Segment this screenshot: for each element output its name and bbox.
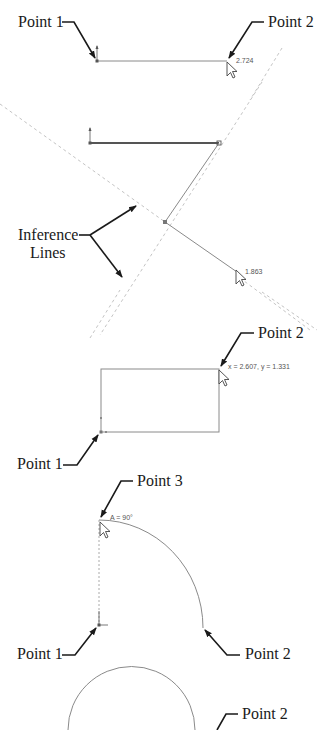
point2-callout-arrow bbox=[229, 22, 264, 58]
inference-line-extension bbox=[240, 278, 310, 330]
origin-icon bbox=[98, 611, 109, 627]
midpoint-marker-icon bbox=[100, 417, 102, 419]
point2-label: Point 2 bbox=[245, 645, 291, 662]
midpoint-marker-icon bbox=[105, 431, 107, 433]
inference-callout-arrow-lower bbox=[90, 235, 122, 277]
arc-angle: A = 90° bbox=[110, 514, 133, 521]
inference-line bbox=[250, 48, 282, 100]
length-dimension: 1.863 bbox=[245, 268, 263, 275]
sketch-arc bbox=[99, 520, 203, 628]
length-dimension: 2.724 bbox=[236, 57, 254, 64]
sketch-line-preview bbox=[165, 222, 237, 272]
panel-inference: Inference Lines 1.863 bbox=[0, 82, 310, 335]
sketch-circle bbox=[68, 667, 195, 730]
point1-label: Point 1 bbox=[17, 455, 63, 472]
point3-label: Point 3 bbox=[137, 472, 183, 489]
panel-circle: Point 2 bbox=[68, 667, 288, 730]
point2-callout-arrow bbox=[205, 630, 240, 655]
cursor-coordinates: x = 2.607, y = 1.331 bbox=[228, 363, 290, 371]
inference-line-vertical bbox=[100, 82, 262, 335]
point2-label: Point 2 bbox=[258, 324, 304, 341]
origin-icon bbox=[96, 45, 99, 63]
sketch-rectangle bbox=[101, 369, 219, 432]
sketch-line-diagonal bbox=[165, 143, 219, 222]
point2-label: Point 2 bbox=[242, 705, 288, 722]
point1-callout-arrow bbox=[62, 22, 95, 58]
arrow-cursor-icon bbox=[100, 522, 110, 538]
inference-label-line1: Inference bbox=[18, 226, 78, 243]
origin-icon bbox=[89, 127, 92, 145]
point2-callout-arrow bbox=[217, 714, 238, 730]
panel-arc: Point 3 A = 90° Point 1 Point 2 bbox=[17, 472, 291, 662]
panel-line: Point 1 Point 2 2.724 bbox=[18, 13, 314, 100]
inference-callout-arrow-upper bbox=[90, 206, 136, 235]
endpoint-marker-icon bbox=[100, 431, 103, 434]
point1-callout-arrow bbox=[63, 435, 98, 465]
arrow-cursor-icon bbox=[227, 62, 237, 78]
inference-label-line2: Lines bbox=[30, 244, 66, 261]
point1-callout-arrow bbox=[62, 628, 96, 655]
point1-label: Point 1 bbox=[18, 13, 64, 30]
panel-rectangle: Point 2 x = 2.607, y = 1.331 Point 1 bbox=[17, 290, 317, 472]
sketch-tools-diagram: Point 1 Point 2 2.724 Inference Lines 1.… bbox=[0, 0, 317, 730]
point2-callout-arrow bbox=[221, 333, 254, 366]
point1-label: Point 1 bbox=[17, 645, 63, 662]
endpoint-marker-icon bbox=[163, 220, 167, 224]
inference-line bbox=[90, 290, 120, 338]
inference-line-horizontal bbox=[0, 104, 165, 222]
point3-callout-arrow bbox=[101, 481, 133, 517]
point2-label: Point 2 bbox=[268, 13, 314, 30]
arrow-cursor-icon bbox=[219, 370, 229, 386]
